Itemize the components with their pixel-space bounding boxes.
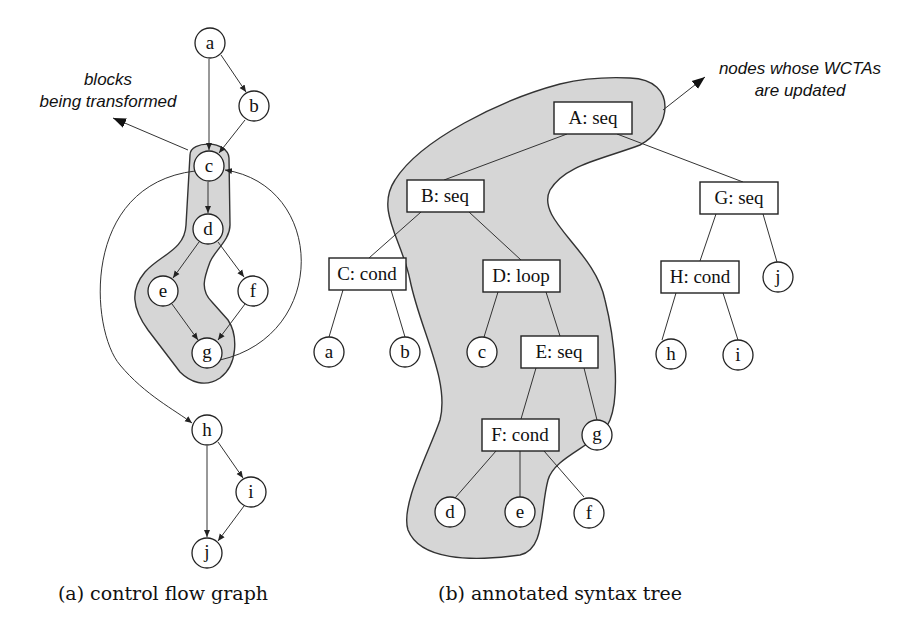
- svg-text:H: cond: H: cond: [670, 266, 731, 287]
- edge-a-b: [221, 55, 246, 92]
- tree-node-A: A: seq: [554, 102, 632, 134]
- svg-text:F: cond: F: cond: [491, 424, 549, 445]
- annotation-wcta-line1: nodes whose WCTAs: [719, 59, 882, 78]
- annotation-wcta-line2: are updated: [755, 81, 846, 100]
- svg-text:c: c: [205, 155, 213, 176]
- annotation-blocks-line2: being transformed: [39, 92, 177, 111]
- tree-leaf-b: b: [390, 337, 420, 367]
- cfg-node-c: c: [194, 151, 224, 181]
- tree-leaf-d: d: [435, 497, 465, 527]
- svg-text:g: g: [592, 423, 602, 444]
- svg-text:d: d: [445, 501, 455, 522]
- svg-text:b: b: [249, 95, 259, 116]
- cfg-node-i: i: [236, 477, 266, 507]
- cfg-node-f: f: [238, 276, 268, 306]
- tree-edge-C-b: [391, 290, 405, 337]
- edge-h-i: [218, 442, 243, 478]
- tree-leaf-h: h: [656, 339, 686, 369]
- cfg-node-j: j: [192, 538, 222, 568]
- cfg-node-g: g: [192, 338, 222, 368]
- edge-b-c: [219, 120, 245, 153]
- annotation-arrow-a: [113, 118, 188, 150]
- caption-b: (b) annotated syntax tree: [438, 582, 682, 604]
- svg-text:B: seq: B: seq: [421, 185, 470, 206]
- cfg-node-d: d: [193, 214, 223, 244]
- updated-nodes-region: [388, 78, 665, 559]
- tree-node-F: F: cond: [482, 419, 559, 451]
- tree-node-B: B: seq: [407, 180, 484, 212]
- svg-text:e: e: [159, 280, 167, 301]
- svg-text:D: loop: D: loop: [492, 265, 550, 286]
- svg-text:h: h: [202, 419, 212, 440]
- svg-text:E: seq: E: seq: [536, 341, 583, 362]
- cfg-node-a: a: [195, 28, 225, 58]
- svg-text:j: j: [203, 541, 209, 562]
- tree-edge-G-j: [763, 214, 777, 262]
- svg-text:f: f: [250, 280, 257, 301]
- svg-text:C: cond: C: cond: [337, 263, 397, 284]
- svg-text:h: h: [666, 343, 676, 364]
- caption-a: (a) control flow graph: [58, 582, 268, 604]
- cfg-node-h: h: [192, 415, 222, 445]
- svg-text:a: a: [325, 341, 334, 362]
- tree-leaf-c: c: [467, 337, 497, 367]
- tree-node-C: C: cond: [329, 258, 406, 290]
- tree-edge-C-a: [329, 290, 343, 337]
- svg-text:A: seq: A: seq: [568, 107, 618, 128]
- tree-node-D: D: loop: [483, 260, 560, 292]
- tree-leaf-j: j: [763, 262, 793, 292]
- tree-node-H: H: cond: [661, 261, 739, 293]
- tree-node-G: G: seq: [700, 182, 778, 214]
- tree-leaf-i: i: [723, 340, 753, 370]
- figure-canvas: a b c d e f g h: [0, 0, 921, 631]
- svg-text:b: b: [400, 341, 410, 362]
- edge-i-j: [218, 506, 244, 541]
- tree-leaf-g: g: [582, 420, 612, 450]
- tree-edge-H-h: [662, 293, 676, 340]
- annotation-arrow-b: [663, 77, 705, 110]
- tree-leaf-a: a: [314, 337, 344, 367]
- svg-text:f: f: [586, 502, 593, 523]
- tree-edge-A-G: [617, 134, 743, 182]
- svg-text:i: i: [735, 344, 740, 365]
- tree-leaf-e: e: [505, 497, 535, 527]
- cfg-node-e: e: [148, 276, 178, 306]
- edge-d-f: [218, 242, 244, 277]
- svg-text:G: seq: G: seq: [714, 187, 764, 208]
- svg-text:j: j: [774, 266, 780, 287]
- tree-edge-G-H: [700, 214, 716, 261]
- tree-leaf-f: f: [574, 498, 604, 528]
- svg-text:i: i: [248, 481, 253, 502]
- svg-text:g: g: [202, 341, 212, 362]
- svg-text:d: d: [203, 218, 213, 239]
- control-flow-graph: a b c d e f g h: [39, 28, 301, 604]
- tree-edge-H-i: [723, 293, 738, 340]
- svg-text:c: c: [478, 341, 486, 362]
- annotation-blocks-line1: blocks: [84, 70, 133, 89]
- annotated-syntax-tree: A: seq B: seq C: cond D: loop E: seq F: …: [314, 59, 882, 604]
- cfg-node-b: b: [239, 91, 269, 121]
- tree-node-E: E: seq: [521, 336, 598, 368]
- svg-text:e: e: [516, 501, 524, 522]
- svg-text:a: a: [206, 32, 215, 53]
